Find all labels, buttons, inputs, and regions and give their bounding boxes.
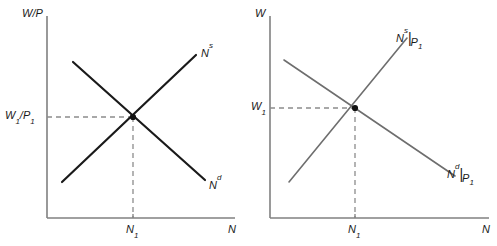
equilibrium-point: [130, 114, 136, 120]
labor-demand-curve: [284, 60, 455, 176]
real-wage-panel: W/P W1/P1 N1 N Ns Nd: [0, 0, 248, 246]
equilibrium-point: [352, 105, 358, 111]
y-axis-label: W/P: [22, 8, 43, 19]
x-axis-label: N: [228, 224, 236, 235]
labor-demand-curve-label: Nd: [209, 180, 221, 191]
x-axis-label: N: [482, 224, 490, 235]
nominal-wage-panel: W W1 N1 N Ns|P1 Nd|P1: [249, 0, 497, 246]
real-wage-plot: [0, 0, 248, 246]
x-axis-tick-label: N1: [126, 224, 138, 235]
y-axis-tick-label: W1/P1: [5, 110, 35, 121]
labor-supply-curve-label: Ns|P1: [396, 30, 423, 44]
labor-market-figure: W/P W1/P1 N1 N Ns Nd: [0, 0, 497, 246]
x-axis-tick-label: N1: [348, 224, 360, 235]
labor-demand-curve-label: Nd|P1: [447, 166, 475, 180]
labor-demand-curve: [73, 62, 205, 180]
y-axis-label: W: [255, 8, 265, 19]
labor-supply-curve-label: Ns: [201, 48, 213, 59]
labor-supply-curve: [289, 38, 407, 182]
y-axis-tick-label: W1: [251, 101, 266, 112]
labor-supply-curve: [62, 55, 196, 182]
nominal-wage-plot: [249, 0, 497, 246]
